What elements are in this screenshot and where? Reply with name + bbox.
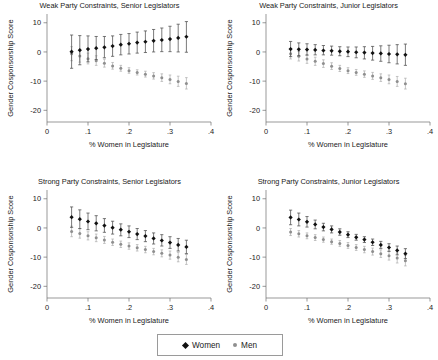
panel-top-left: Weak Party Constraints, Senior Legislato… xyxy=(0,0,219,172)
svg-text:.4: .4 xyxy=(208,303,214,312)
svg-text:-10: -10 xyxy=(249,77,260,86)
legend-item-men: Men xyxy=(233,341,257,350)
svg-text:.2: .2 xyxy=(345,127,351,136)
svg-text:-10: -10 xyxy=(30,253,41,262)
svg-text:-20: -20 xyxy=(249,106,260,115)
panel-plot: 100-10-200.1.2.3.4% Women in Legislature… xyxy=(0,176,219,348)
dot-marker-icon xyxy=(233,343,237,347)
svg-text:0: 0 xyxy=(45,303,49,312)
svg-text:.4: .4 xyxy=(427,127,433,136)
panel-bottom-left: Strong Party Constraints, Senior Legisla… xyxy=(0,176,219,348)
svg-text:.1: .1 xyxy=(304,303,310,312)
panel-plot: 100-10-200.1.2.3.4% Women in Legislature… xyxy=(0,0,219,172)
svg-text:-20: -20 xyxy=(249,282,260,291)
svg-text:.3: .3 xyxy=(386,303,392,312)
svg-text:10: 10 xyxy=(252,194,260,203)
svg-text:.2: .2 xyxy=(126,303,132,312)
svg-text:.3: .3 xyxy=(386,127,392,136)
legend: Women Men xyxy=(157,334,283,356)
panel-plot: 100-10-200.1.2.3.4% Women in Legislature… xyxy=(219,176,438,348)
diamond-marker-icon xyxy=(182,341,189,348)
svg-text:% Women in Legislature: % Women in Legislature xyxy=(89,140,169,149)
svg-text:0: 0 xyxy=(37,224,41,233)
svg-text:.3: .3 xyxy=(167,303,173,312)
svg-text:.4: .4 xyxy=(427,303,433,312)
panel-top-right: Weak Party Constraints, Junior Legislato… xyxy=(219,0,438,172)
svg-text:.4: .4 xyxy=(208,127,214,136)
panel-bottom-right: Strong Party Constraints, Junior Legisla… xyxy=(219,176,438,348)
legend-label: Women xyxy=(192,341,220,350)
svg-text:0: 0 xyxy=(256,224,260,233)
svg-text:.2: .2 xyxy=(345,303,351,312)
svg-text:% Women in Legislature: % Women in Legislature xyxy=(89,316,169,325)
svg-text:% Women in Legislature: % Women in Legislature xyxy=(308,316,388,325)
svg-text:10: 10 xyxy=(33,18,41,27)
panel-plot: 100-10-200.1.2.3.4% Women in Legislature… xyxy=(219,0,438,172)
svg-text:Gender Cosponsorship Score: Gender Cosponsorship Score xyxy=(6,195,15,292)
svg-text:-10: -10 xyxy=(30,77,41,86)
svg-text:0: 0 xyxy=(264,303,268,312)
figure-canvas: Weak Party Constraints, Senior Legislato… xyxy=(0,0,438,360)
svg-text:0: 0 xyxy=(45,127,49,136)
svg-text:-20: -20 xyxy=(30,106,41,115)
svg-text:0: 0 xyxy=(264,127,268,136)
legend-item-women: Women xyxy=(183,341,220,350)
svg-text:.2: .2 xyxy=(126,127,132,136)
svg-text:0: 0 xyxy=(256,48,260,57)
svg-text:Gender Cosponsorship Score: Gender Cosponsorship Score xyxy=(225,19,234,116)
svg-text:-20: -20 xyxy=(30,282,41,291)
svg-text:.1: .1 xyxy=(304,127,310,136)
legend-label: Men xyxy=(241,341,257,350)
svg-text:Gender Cosponsorship Score: Gender Cosponsorship Score xyxy=(6,19,15,116)
svg-text:.3: .3 xyxy=(167,127,173,136)
svg-text:-10: -10 xyxy=(249,253,260,262)
svg-text:Gender Cosponsorship Score: Gender Cosponsorship Score xyxy=(225,195,234,292)
svg-text:10: 10 xyxy=(252,18,260,27)
svg-text:10: 10 xyxy=(33,194,41,203)
svg-text:.1: .1 xyxy=(85,303,91,312)
svg-text:.1: .1 xyxy=(85,127,91,136)
svg-text:% Women in Legislature: % Women in Legislature xyxy=(308,140,388,149)
svg-text:0: 0 xyxy=(37,48,41,57)
